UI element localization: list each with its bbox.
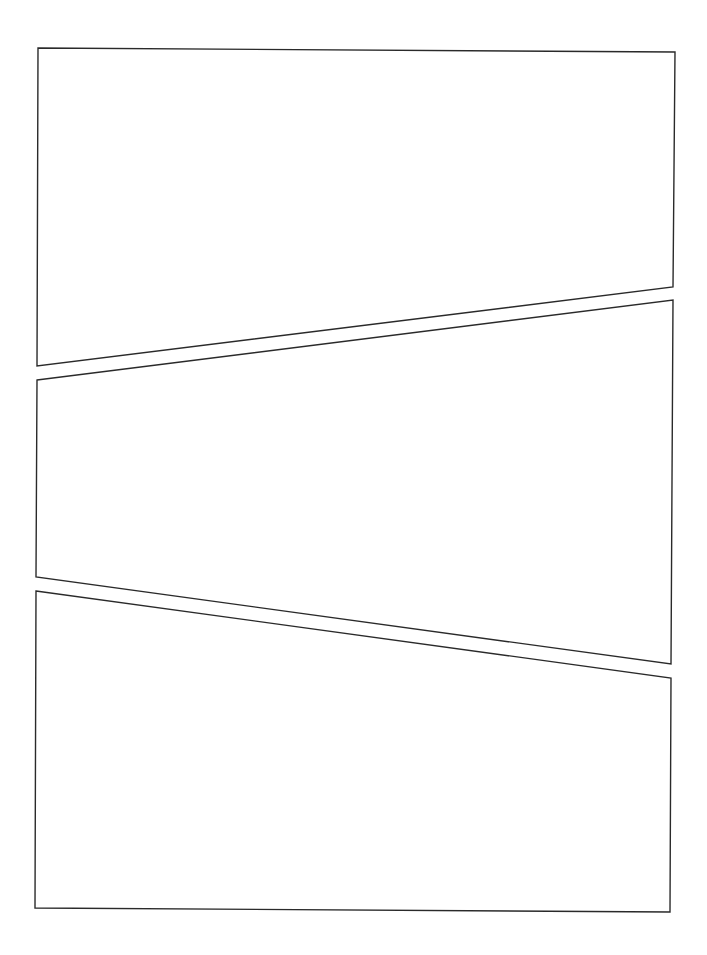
comic-page <box>0 0 707 955</box>
